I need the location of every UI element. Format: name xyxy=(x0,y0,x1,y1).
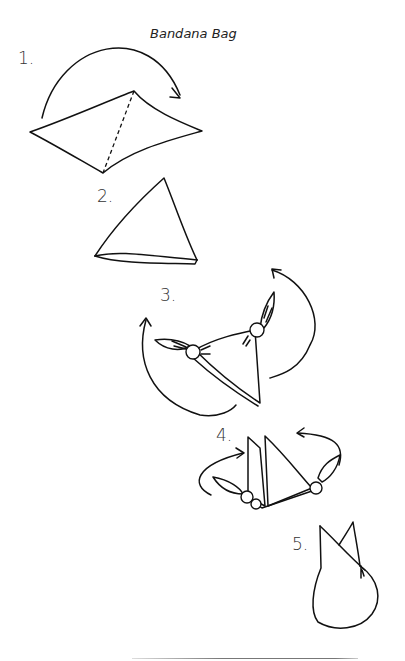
right-flip-arrow xyxy=(270,270,315,378)
knot-crease xyxy=(201,346,210,354)
step-4-illustration xyxy=(199,428,340,509)
triangle-outline xyxy=(95,178,197,260)
right-knot xyxy=(310,482,322,494)
step-2-illustration xyxy=(95,178,197,264)
knot-crease xyxy=(243,336,250,346)
left-wrap-arrow xyxy=(199,453,243,495)
fold-arrow-arc xyxy=(42,48,180,118)
step-1-illustration xyxy=(30,48,202,173)
left-knot-lower xyxy=(251,499,261,509)
bag-right-flap xyxy=(339,522,360,566)
triangle-edge xyxy=(193,358,258,406)
square-bandana xyxy=(30,91,202,173)
left-tail xyxy=(213,477,243,494)
left-knot xyxy=(186,345,200,359)
front-flap xyxy=(265,436,312,506)
right-knot xyxy=(250,323,264,337)
bandana-bag-diagram xyxy=(0,0,405,661)
step-5-illustration xyxy=(313,522,378,628)
triangle-bottom-edge xyxy=(95,256,197,264)
bag-left-flap xyxy=(320,526,365,570)
bag-body xyxy=(313,526,378,628)
diagonal-fold-line xyxy=(103,91,134,173)
right-wrap-arrow xyxy=(298,433,341,465)
step-3-illustration xyxy=(140,269,315,416)
bottom-divider xyxy=(132,658,358,659)
right-tail xyxy=(318,455,340,482)
left-flip-arrow xyxy=(143,320,236,416)
